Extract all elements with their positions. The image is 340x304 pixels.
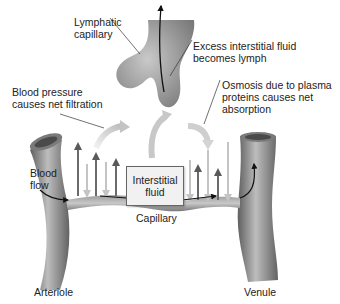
excess-fluid-label: Excess interstitial fluid becomes lymph [193, 40, 296, 64]
blood-pressure-label: Blood pressure causes net filtration [12, 86, 102, 110]
capillary-exchange-diagram: Lymphatic capillary Excess interstitial … [0, 0, 340, 304]
arteriole-label: Arteriole [34, 286, 73, 298]
osmosis-label: Osmosis due to plasma proteins causes ne… [222, 79, 332, 115]
lymphatic-capillary-label: Lymphatic capillary [74, 16, 121, 40]
blood-flow-label: Blood flow [30, 167, 57, 191]
capillary-label: Capillary [136, 212, 177, 224]
lymphatic-capillary-shape [116, 20, 194, 107]
venule-label: Venule [244, 286, 276, 298]
interstitial-fluid-box: Interstitial fluid [126, 166, 184, 206]
